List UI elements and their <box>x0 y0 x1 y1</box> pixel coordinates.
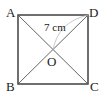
vertex-label-c: C <box>90 79 99 94</box>
vertex-label-a: A <box>6 5 16 20</box>
center-label-o: O <box>47 54 56 69</box>
vertex-label-d: D <box>89 5 98 20</box>
square-diagram: A D B C O 7 cm <box>0 0 109 95</box>
measurement-label: 7 cm <box>44 21 66 33</box>
vertex-label-b: B <box>6 79 15 94</box>
